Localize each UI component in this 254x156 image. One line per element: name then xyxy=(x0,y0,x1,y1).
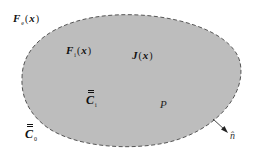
exterior-tensor-symbol: C xyxy=(25,128,33,140)
exterior-field-symbol: F xyxy=(13,12,20,24)
paren-close: ) xyxy=(88,45,91,56)
normal-symbol: n̂ xyxy=(230,130,235,141)
label-point: P xyxy=(160,99,167,110)
region-body xyxy=(22,15,241,147)
label-exterior-field: Fe(x) xyxy=(13,13,40,24)
label-exterior-tensor: C0 xyxy=(25,128,37,140)
interior-field-symbol: F xyxy=(66,44,73,56)
current-symbol: J xyxy=(132,49,138,61)
interior-tensor-symbol: C xyxy=(86,94,94,106)
interior-tensor-subscript: i xyxy=(95,102,97,108)
interior-field-argument: x xyxy=(81,44,87,56)
paren-open: ( xyxy=(77,45,80,56)
label-normal: n̂ xyxy=(230,131,235,141)
point-symbol: P xyxy=(160,98,167,110)
paren-close: ) xyxy=(149,50,152,61)
exterior-tensor-subscript: 0 xyxy=(34,136,37,142)
paren-open: ( xyxy=(139,50,142,61)
interior-field-subscript: i xyxy=(74,52,76,58)
label-interior-field: Fi(x) xyxy=(66,45,92,56)
exterior-field-argument: x xyxy=(29,12,35,24)
exterior-field-subscript: e xyxy=(21,20,24,26)
paren-open: ( xyxy=(25,13,28,24)
current-argument: x xyxy=(143,49,149,61)
label-current: J(x) xyxy=(132,50,154,61)
label-interior-tensor: Ci xyxy=(86,94,97,106)
paren-close: ) xyxy=(36,13,39,24)
